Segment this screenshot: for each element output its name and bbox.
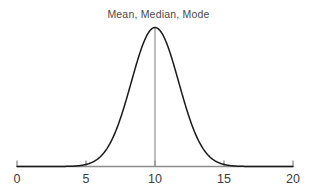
x-axis-tick-label: 0 [0, 172, 37, 186]
data-group [17, 28, 293, 167]
normal-distribution-chart: Mean, Median, Mode 05101520 [0, 0, 317, 193]
chart-plot-area [0, 0, 317, 193]
x-axis-tick-label: 15 [204, 172, 244, 186]
x-axis-tick-label: 10 [135, 172, 175, 186]
x-axis-tick-label: 20 [273, 172, 313, 186]
x-axis-tick-label: 5 [66, 172, 106, 186]
